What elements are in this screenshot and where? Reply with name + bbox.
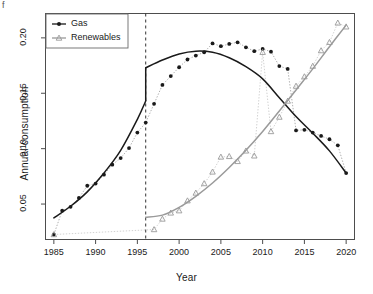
gas-data-point: [161, 83, 165, 87]
legend-entry-renewables: Renewables: [71, 32, 121, 42]
x-tick-label: 1990: [76, 247, 116, 257]
y-tick-label: 0.05: [18, 186, 28, 220]
gas-data-point: [102, 173, 106, 177]
renewables-data-point: [160, 216, 166, 221]
gas-data-point: [252, 49, 256, 53]
gas-data-point: [169, 74, 173, 78]
axis-ticks: [41, 38, 346, 244]
gas-data-point: [152, 102, 156, 106]
x-tick-label: 2020: [326, 247, 366, 257]
gas-data-point: [244, 45, 248, 49]
renewables-data-point: [201, 181, 207, 186]
gas-data-point: [85, 184, 89, 188]
gas-data-point: [94, 182, 98, 186]
gas-data-point: [319, 134, 323, 138]
gas-data-point: [219, 44, 223, 48]
renewables-data-point: [318, 48, 324, 53]
gas-data-point: [211, 42, 215, 46]
renewables-data-point: [226, 154, 232, 159]
renewables-data-point: [327, 39, 333, 44]
y-tick-label: 0.20: [18, 20, 28, 54]
gas-data-point: [60, 209, 64, 213]
gas-data-point: [119, 156, 123, 160]
renewables-data-point: [218, 154, 224, 159]
gas-data-point: [177, 65, 181, 69]
gas-data-point: [302, 128, 306, 132]
gas-data-point: [311, 131, 315, 135]
gas-data-point: [77, 196, 81, 200]
data-points: [51, 20, 349, 237]
gas-data-point: [328, 137, 332, 141]
gas-data-point: [186, 58, 190, 62]
renewables-data-point: [260, 49, 266, 54]
gas-data-point: [202, 50, 206, 54]
x-tick-label: 2010: [243, 247, 283, 257]
data-connector-lines: [54, 23, 346, 235]
gas-data-point: [144, 121, 148, 125]
gas-data-point: [135, 131, 139, 135]
gas-data-point: [227, 42, 231, 46]
gas-data-point: [286, 67, 290, 71]
gas-data-point: [294, 128, 298, 132]
gas-data-point: [69, 205, 73, 209]
x-tick-label: 2000: [159, 247, 199, 257]
x-axis-title: Year: [0, 272, 373, 283]
gas-data-point: [194, 54, 198, 58]
renewables-data-point: [277, 114, 283, 119]
renewables-data-point: [252, 153, 258, 158]
gas-data-point: [344, 171, 348, 175]
x-tick-label: 2005: [201, 247, 241, 257]
x-tick-label: 1985: [34, 247, 74, 257]
x-tick-label: 2015: [284, 247, 324, 257]
chart-figure: f Annual consumption Year 19851990199520…: [0, 0, 373, 294]
gas-data-point: [236, 40, 240, 44]
x-tick-label: 1995: [117, 247, 157, 257]
gas-data-point: [110, 163, 114, 167]
gas-data-point: [277, 64, 281, 68]
gas-data-point: [336, 143, 340, 147]
gas-data-point: [269, 50, 273, 54]
legend-entry-gas: Gas: [71, 18, 88, 28]
gas-data-point: [127, 146, 131, 150]
y-tick-label: 0.15: [18, 75, 28, 109]
renewables-data-point: [335, 20, 341, 25]
y-tick-label: 0.10: [18, 131, 28, 165]
